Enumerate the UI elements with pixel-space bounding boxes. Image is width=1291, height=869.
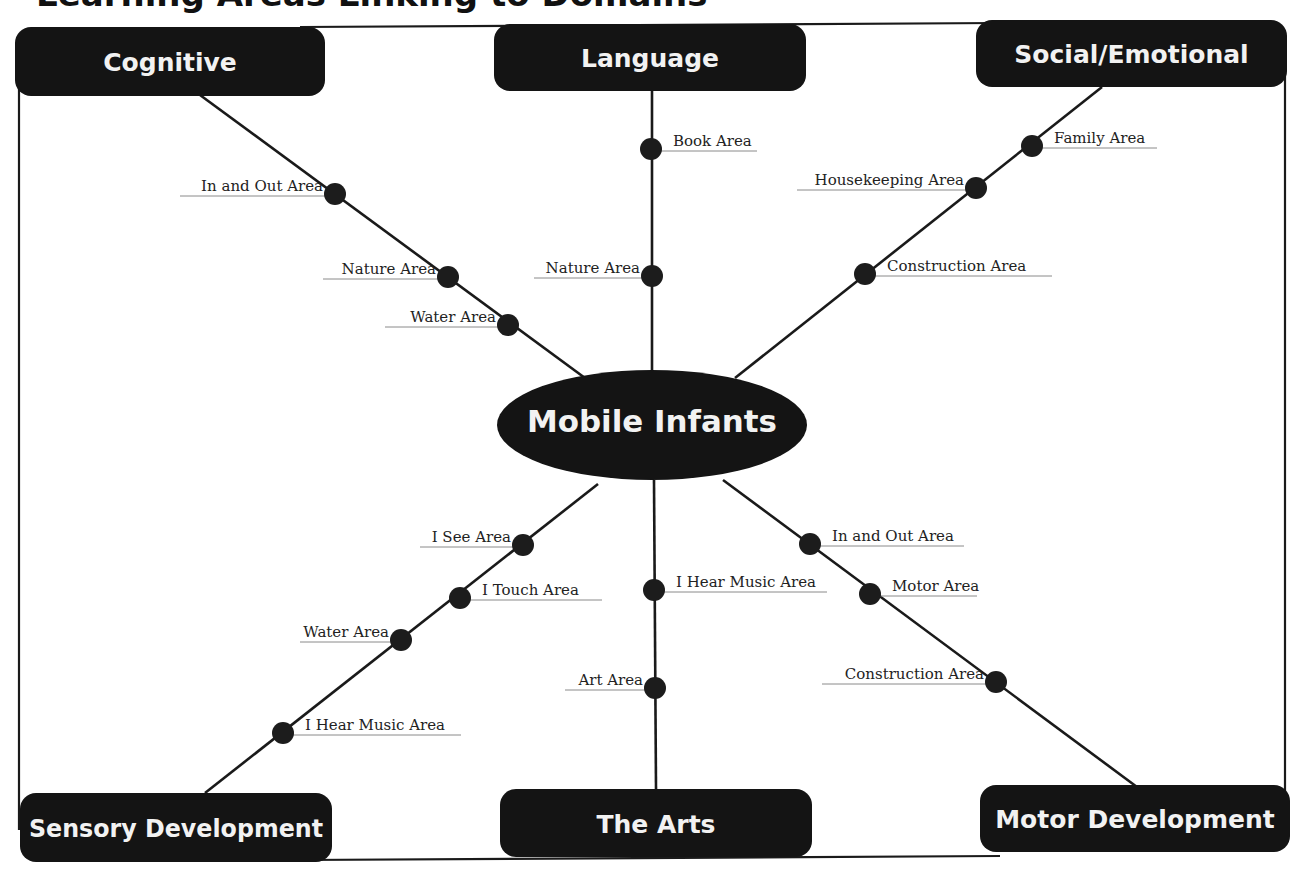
node-dot-icon (643, 579, 665, 601)
area-arts-0: I Hear Music Area (643, 573, 827, 601)
area-cognitive-1: Nature Area (323, 260, 459, 288)
area-social-0: Family Area (1021, 129, 1157, 157)
domain-box-arts: The Arts (500, 789, 812, 857)
area-sensory-3: I Hear Music Area (272, 716, 461, 744)
spoke-arts (654, 480, 656, 789)
node-dot-icon (272, 722, 294, 744)
node-dot-icon (449, 587, 471, 609)
node-dot-icon (985, 671, 1007, 693)
domain-label: Sensory Development (29, 814, 323, 843)
domain-label: Language (581, 44, 719, 73)
area-label: Motor Area (892, 577, 979, 595)
area-label: Nature Area (342, 260, 436, 278)
domain-label: Motor Development (995, 805, 1275, 834)
area-label: In and Out Area (832, 527, 954, 545)
area-cognitive-0: In and Out Area (180, 177, 346, 205)
node-dot-icon (640, 138, 662, 160)
area-label: Water Area (303, 623, 389, 641)
node-dot-icon (497, 314, 519, 336)
domain-box-social: Social/Emotional (976, 20, 1287, 87)
area-label: Art Area (577, 671, 643, 689)
node-dot-icon (437, 266, 459, 288)
node-dot-icon (854, 263, 876, 285)
area-label: Nature Area (546, 259, 640, 277)
area-motor-2: Construction Area (822, 665, 1007, 693)
area-motor-0: In and Out Area (799, 527, 964, 555)
node-dot-icon (512, 534, 534, 556)
domain-label: Social/Emotional (1014, 40, 1248, 69)
area-label: Family Area (1054, 129, 1145, 147)
area-label: I Hear Music Area (676, 573, 816, 591)
node-dot-icon (1021, 135, 1043, 157)
area-label: Housekeeping Area (815, 171, 965, 189)
area-sensory-2: Water Area (300, 623, 412, 651)
spoke-cognitive (200, 95, 585, 378)
node-dot-icon (859, 583, 881, 605)
domain-box-language: Language (494, 24, 806, 91)
area-label: In and Out Area (201, 177, 323, 195)
area-language-1: Nature Area (534, 259, 663, 287)
area-label: I See Area (432, 528, 511, 546)
mind-map-diagram: In and Out AreaNature AreaWater AreaBook… (0, 0, 1291, 869)
area-language-0: Book Area (640, 132, 757, 160)
hub-label: Mobile Infants (527, 403, 777, 439)
node-dot-icon (390, 629, 412, 651)
node-dot-icon (799, 533, 821, 555)
area-label: I Touch Area (482, 581, 579, 599)
domain-label: Cognitive (103, 48, 237, 77)
area-label: Construction Area (845, 665, 984, 683)
hub: Mobile Infants (497, 370, 807, 480)
area-sensory-1: I Touch Area (449, 581, 602, 609)
node-dot-icon (644, 677, 666, 699)
area-sensory-0: I See Area (420, 528, 534, 556)
area-label: Water Area (410, 308, 496, 326)
domain-label: The Arts (596, 810, 715, 839)
area-motor-1: Motor Area (859, 577, 979, 605)
node-dot-icon (965, 177, 987, 199)
area-arts-1: Art Area (565, 671, 666, 699)
area-label: Book Area (673, 132, 752, 150)
domain-box-sensory: Sensory Development (20, 793, 332, 862)
node-dot-icon (641, 265, 663, 287)
domain-box-motor: Motor Development (980, 785, 1290, 852)
area-cognitive-2: Water Area (385, 308, 519, 336)
node-dot-icon (324, 183, 346, 205)
area-label: I Hear Music Area (305, 716, 445, 734)
domain-box-cognitive: Cognitive (15, 27, 325, 96)
area-label: Construction Area (887, 257, 1026, 275)
spoke-social (735, 87, 1102, 378)
area-social-1: Housekeeping Area (797, 171, 987, 199)
